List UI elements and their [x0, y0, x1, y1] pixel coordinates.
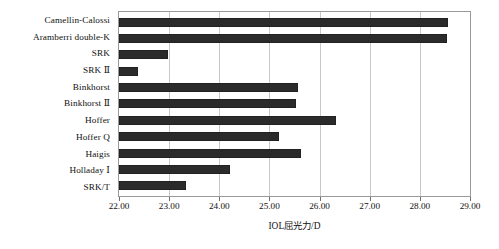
x-axis-tick-label: 24.00 [209, 202, 230, 211]
category-label: Binkhorst Ⅱ [0, 96, 114, 113]
category-label: Hoffer [0, 112, 114, 129]
x-axis-tick-label: 29.00 [460, 202, 481, 211]
x-axis-tick-label: 28.00 [410, 202, 431, 211]
bar[interactable] [119, 149, 301, 158]
bar-track [119, 63, 470, 79]
bar-track [119, 112, 470, 128]
category-label: Hoffer Q [0, 129, 114, 146]
bar-track [119, 161, 470, 177]
bar-track [119, 14, 470, 30]
bar-track [119, 30, 470, 46]
category-label: SRK/T [0, 179, 114, 196]
category-label: SRK [0, 45, 114, 62]
bar[interactable] [119, 99, 296, 108]
x-axis-tick-label: 25.00 [259, 202, 280, 211]
x-axis-tick-label: 23.00 [159, 202, 180, 211]
bar[interactable] [119, 34, 447, 43]
category-label: Haigis [0, 146, 114, 163]
category-label: Aramberri double-K [0, 29, 114, 46]
bar-track [119, 129, 470, 145]
bar[interactable] [119, 18, 448, 27]
bar[interactable] [119, 181, 186, 190]
bar-track [119, 47, 470, 63]
category-axis-labels: Camellin-CalossiAramberri double-KSRKSRK… [0, 12, 114, 196]
category-label: Holladay Ⅰ [0, 163, 114, 180]
bar-track [119, 96, 470, 112]
x-axis-tick-label: 27.00 [359, 202, 380, 211]
x-axis-tick-label: 22.00 [109, 202, 130, 211]
bar[interactable] [119, 67, 138, 76]
horizontal-bar-chart: Camellin-CalossiAramberri double-KSRKSRK… [0, 0, 499, 249]
bar-track [119, 178, 470, 194]
category-label: Binkhorst [0, 79, 114, 96]
x-axis-title: IOL屈光力/D [118, 222, 471, 231]
bar[interactable] [119, 165, 230, 174]
bar[interactable] [119, 132, 279, 141]
bar[interactable] [119, 50, 168, 59]
bar-track [119, 79, 470, 95]
bar-series [119, 12, 470, 196]
category-label: SRK Ⅱ [0, 62, 114, 79]
x-axis-tick-label: 26.00 [309, 202, 330, 211]
bar[interactable] [119, 116, 336, 125]
plot-area [118, 11, 471, 197]
bar[interactable] [119, 83, 298, 92]
bar-track [119, 145, 470, 161]
category-label: Camellin-Calossi [0, 12, 114, 29]
